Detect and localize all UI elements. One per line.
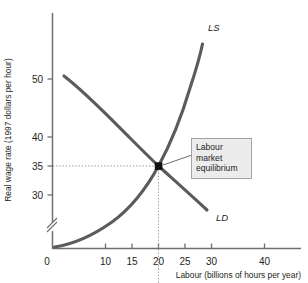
x-tick-labels: 10 15 20 25 30 40 xyxy=(100,256,271,267)
y-tick-label-30: 30 xyxy=(32,190,44,201)
y-axis-title: Real wage rate (1997 dollars per hour) xyxy=(3,58,13,202)
y-tick-label-35: 35 xyxy=(32,161,44,172)
curves xyxy=(55,44,208,247)
x-tick-label-15: 15 xyxy=(126,256,138,267)
labour-market-chart: 50 40 35 30 0 10 15 20 25 30 40 xyxy=(0,0,308,283)
callout-line-1: Labour xyxy=(196,142,223,152)
callout-line-2: market xyxy=(196,153,223,163)
y-tick-label-50: 50 xyxy=(32,74,44,85)
equilibrium-callout: Labour market equilibrium xyxy=(192,139,252,179)
x-tick-label-30: 30 xyxy=(206,256,218,267)
labour-demand-curve-label: LD xyxy=(216,212,228,223)
x-tick-label-40: 40 xyxy=(259,256,271,267)
labour-demand-curve xyxy=(64,76,207,210)
y-tick-label-40: 40 xyxy=(32,132,44,143)
y-tick-labels: 50 40 35 30 0 xyxy=(32,74,50,268)
x-axis-title: Labour (billions of hours per year) xyxy=(176,270,301,280)
labour-supply-curve-label: LS xyxy=(208,22,220,33)
callout-leader-line xyxy=(163,155,192,165)
chart-svg: 50 40 35 30 0 10 15 20 25 30 40 xyxy=(0,0,308,283)
labour-supply-curve xyxy=(55,44,203,247)
equilibrium-marker xyxy=(155,162,163,170)
callout-line-3: equilibrium xyxy=(196,163,238,173)
x-tick-label-25: 25 xyxy=(179,256,191,267)
x-tick-label-10: 10 xyxy=(100,256,112,267)
origin-label: 0 xyxy=(44,256,50,267)
